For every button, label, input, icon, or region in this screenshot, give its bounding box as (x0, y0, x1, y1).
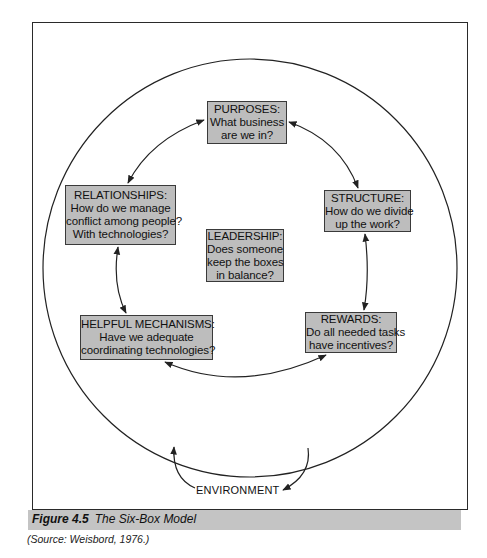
box-leadership: LEADERSHIP: Does someone keep the boxes … (206, 229, 284, 282)
arrow-structure-rewards (364, 234, 367, 310)
box-structure: STRUCTURE: How do we divide up the work? (324, 190, 411, 232)
box-helpful-mechanisms: HELPFUL MECHANISMS: Have we adequate coo… (80, 315, 213, 360)
figure-source: (Source: Weisbord, 1976.) (27, 533, 149, 545)
box-heading: HELPFUL MECHANISMS: (81, 318, 212, 331)
box-text: How do we manage (66, 202, 175, 215)
box-purposes: PURPOSES: What business are we in? (207, 101, 287, 144)
box-text: keep the boxes (207, 256, 283, 269)
box-text: Do all needed tasks (306, 326, 396, 339)
environment-label: ENVIRONMENT (196, 484, 279, 496)
box-rewards: REWARDS: Do all needed tasks have incent… (305, 312, 397, 353)
figure-title: The Six-Box Model (95, 512, 196, 526)
box-text: With technologies? (66, 228, 175, 241)
box-text: Have we adequate (81, 331, 212, 344)
box-relationships: RELATIONSHIPS: How do we manage conflict… (65, 185, 176, 245)
figure-label: Figure 4.5 (32, 512, 89, 526)
box-text: up the work? (325, 218, 410, 231)
box-text: have incentives? (306, 339, 396, 352)
box-text: in balance? (207, 269, 283, 282)
box-heading: PURPOSES: (208, 103, 286, 116)
figure-caption: Figure 4.5The Six-Box Model (32, 512, 196, 526)
box-heading: STRUCTURE: (325, 192, 410, 205)
box-text: What business (208, 116, 286, 129)
box-text: How do we divide (325, 205, 410, 218)
arrow-purposes-structure (289, 122, 358, 188)
arrow-purposes-relationships (128, 120, 204, 183)
box-heading: RELATIONSHIPS: (66, 189, 175, 202)
box-text: conflict among people? (66, 215, 175, 228)
box-heading: LEADERSHIP: (207, 230, 283, 243)
arrow-relationships-helpful (116, 247, 126, 313)
arrow-environment-in (174, 447, 195, 488)
box-text: Does someone (207, 243, 283, 256)
box-heading: REWARDS: (306, 313, 396, 326)
box-text: coordinating technologies? (81, 344, 212, 357)
box-text: are we in? (208, 129, 286, 142)
